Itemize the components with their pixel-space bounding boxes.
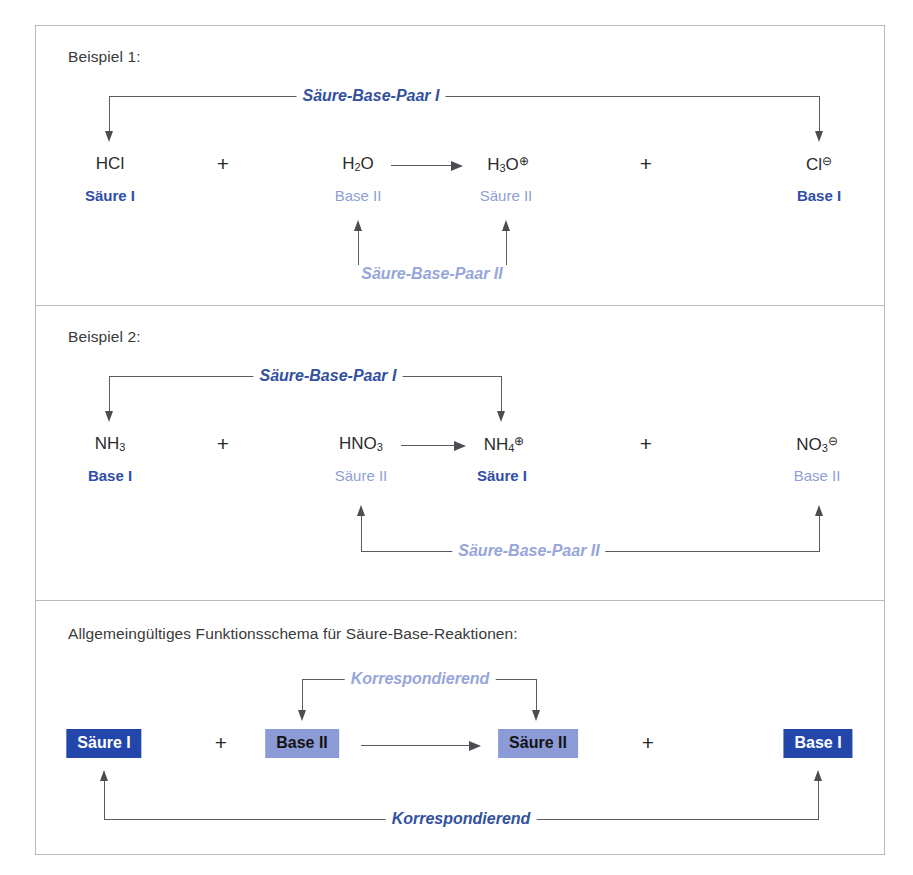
panel3-top-bracket-label: Korrespondierend	[345, 670, 496, 688]
panel1-species-2-role: Base II	[335, 187, 382, 204]
panel1-bottom-arrowhead-right	[502, 220, 510, 231]
panel2-top-bracket-left-arrowhead	[105, 411, 113, 422]
panel-funktionsschema: Allgemeingültiges Funktionsschema für Sä…	[36, 601, 884, 854]
panel2-reaction-arrowhead	[454, 441, 466, 451]
panel2-species-2-formula: HNO3	[339, 434, 383, 454]
panel1-species-3-formula: H3O⊕	[487, 154, 529, 175]
panel1-bottom-bracket-label: Säure-Base-Paar II	[355, 265, 508, 283]
figure-frame: Beispiel 1: Säure-Base-Paar I HCl Säure …	[35, 25, 885, 855]
panel1-top-bracket-left-stem	[109, 96, 110, 133]
panel2-plus-1: +	[217, 432, 229, 456]
panel2-species-3-formula: NH4⊕	[484, 434, 525, 455]
panel3-top-bracket-left-arrowhead	[298, 710, 306, 721]
panel-beispiel-1: Beispiel 1: Säure-Base-Paar I HCl Säure …	[36, 26, 884, 306]
panel-beispiel-2: Beispiel 2: Säure-Base-Paar I NH3 Base I…	[36, 306, 884, 601]
panel2-bottom-bracket-right-stem	[819, 514, 820, 552]
panel2-species-3-role: Säure I	[477, 467, 527, 484]
panel2-species-1-role: Base I	[88, 467, 132, 484]
panel2-species-4-role: Base II	[794, 467, 841, 484]
panel1-reaction-arrow-line	[391, 165, 453, 166]
panel2-top-bracket-right-arrowhead	[497, 411, 505, 422]
panel1-top-bracket-hline	[109, 96, 820, 97]
panel1-species-4-role: Base I	[797, 187, 841, 204]
panel2-reaction-arrow-line	[401, 445, 456, 446]
panel1-caption: Beispiel 1:	[68, 48, 141, 66]
panel1-plus-2: +	[640, 152, 652, 176]
panel1-reaction-arrowhead	[451, 161, 463, 171]
panel2-species-2-role: Säure II	[335, 467, 388, 484]
panel3-box-base-2[interactable]: Base II	[265, 729, 339, 758]
panel2-species-4-formula: NO3⊖	[796, 434, 838, 455]
panel3-box-base-1[interactable]: Base I	[783, 729, 852, 758]
panel1-top-bracket-right-arrowhead	[815, 131, 823, 142]
panel3-top-bracket-right-arrowhead	[532, 710, 540, 721]
panel3-reaction-arrowhead	[469, 741, 481, 751]
panel2-bottom-bracket-left-arrowhead	[357, 505, 365, 516]
panel2-caption: Beispiel 2:	[68, 328, 141, 346]
panel2-bottom-bracket-label: Säure-Base-Paar II	[452, 542, 605, 560]
panel3-box-saeure-1[interactable]: Säure I	[66, 729, 141, 758]
panel3-top-bracket-right-stem	[536, 679, 537, 712]
panel1-species-1-role: Säure I	[85, 187, 135, 204]
panel1-top-bracket-right-stem	[819, 96, 820, 133]
panel3-box-saeure-2[interactable]: Säure II	[498, 729, 578, 758]
panel1-top-bracket-label: Säure-Base-Paar I	[297, 87, 446, 105]
panel2-bottom-bracket-left-stem	[361, 514, 362, 552]
panel2-plus-2: +	[640, 432, 652, 456]
panel3-top-bracket-left-stem	[302, 679, 303, 712]
panel1-top-bracket-left-arrowhead	[105, 131, 113, 142]
panel1-species-3-role: Säure II	[480, 187, 533, 204]
panel3-caption: Allgemeingültiges Funktionsschema für Sä…	[68, 625, 518, 643]
panel3-bottom-bracket-right-arrowhead	[814, 770, 822, 781]
panel2-top-bracket-label: Säure-Base-Paar I	[254, 367, 403, 385]
panel1-species-2-formula: H2O	[342, 154, 374, 174]
panel1-species-4-formula: Cl⊖	[806, 154, 832, 175]
panel2-bottom-bracket-right-arrowhead	[815, 505, 823, 516]
panel2-top-bracket-left-stem	[109, 376, 110, 413]
panel3-bottom-bracket-right-stem	[818, 779, 819, 820]
panel3-bottom-bracket-label: Korrespondierend	[386, 810, 537, 828]
panel1-bottom-arrowhead-left	[354, 220, 362, 231]
panel1-species-1-formula: HCl	[96, 154, 124, 174]
panel2-species-1-formula: NH3	[95, 434, 126, 454]
panel1-plus-1: +	[217, 152, 229, 176]
panel2-top-bracket-right-stem	[501, 376, 502, 413]
panel3-plus-2: +	[642, 731, 654, 755]
panel3-plus-1: +	[215, 731, 227, 755]
panel3-bottom-bracket-left-arrowhead	[100, 770, 108, 781]
panel3-bottom-bracket-left-stem	[104, 779, 105, 820]
panel3-reaction-arrow-line	[361, 745, 471, 746]
